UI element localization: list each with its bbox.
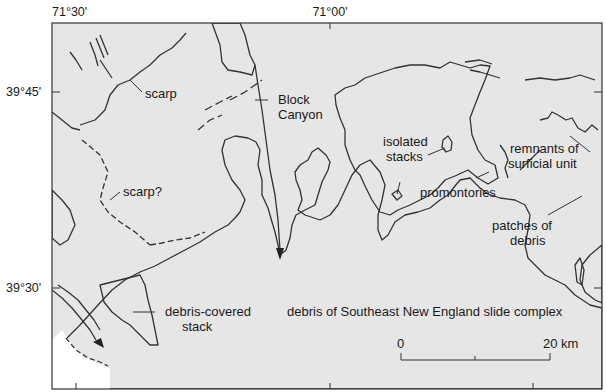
label-isolated-line2: stacks: [386, 149, 423, 164]
label-remnants-line2: surficial unit: [508, 156, 577, 171]
label-isolated-line1: isolated: [383, 134, 428, 149]
lon-label-east: 71°00': [312, 5, 347, 19]
scale-end-label: 20 km: [543, 336, 578, 351]
label-patches-line2: debris: [510, 233, 546, 248]
label-block-canyon-line2: Canyon: [278, 107, 323, 122]
lon-label-west: 71°30': [52, 5, 87, 19]
label-promontories: promontories: [420, 185, 496, 200]
scale-start-label: 0: [397, 336, 404, 351]
surficial-unit-area: [52, 23, 602, 389]
geologic-map: 71°30' 71°00' 39°45' 39°30' scarp scarp?…: [0, 0, 606, 392]
label-remnants-line1: remnants of: [510, 141, 579, 156]
lat-label-upper: 39°45': [6, 85, 41, 99]
label-debris-stack-line2: stack: [182, 319, 213, 334]
label-scarp-question: scarp?: [123, 184, 162, 199]
label-patches-line1: patches of: [492, 218, 552, 233]
lat-label-lower: 39°30': [6, 281, 41, 295]
label-debris-stack-line1: debris-covered: [165, 304, 251, 319]
label-block-canyon-line1: Block: [278, 92, 310, 107]
label-slide-complex: debris of Southeast New England slide co…: [287, 304, 563, 319]
label-scarp: scarp: [145, 86, 177, 101]
